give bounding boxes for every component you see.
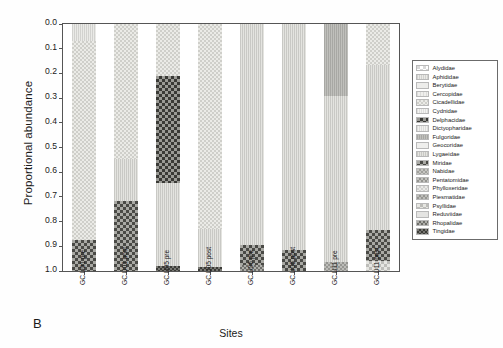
x-axis-label-gc-u05-post: GC U05 post xyxy=(205,247,212,285)
y-tick-mark xyxy=(59,246,63,247)
bar-gc-u11-pre[interactable] xyxy=(324,24,348,271)
legend-swatch-psyllidae xyxy=(416,203,429,209)
y-tick-mark xyxy=(59,221,63,222)
legend-item-cercopidae[interactable]: Cercopidae xyxy=(416,90,495,99)
x-axis-label-gc-u01-post: GC U01 post xyxy=(121,247,128,285)
y-tick-mark xyxy=(59,98,63,99)
legend-swatch-piesmatidae xyxy=(416,194,429,200)
bar-segment-lygaeidae[interactable] xyxy=(366,65,390,230)
legend-item-tingidae[interactable]: Tingidae xyxy=(416,227,495,236)
y-tick-label: 0.5 xyxy=(33,141,57,151)
y-tick-label: 0.1 xyxy=(33,42,57,52)
y-tick-label: 0.0 xyxy=(33,17,57,27)
legend-label: Pentatomidae xyxy=(433,176,469,185)
bar-segment-lygaeidae[interactable] xyxy=(282,24,306,250)
x-axis-title: Sites xyxy=(62,327,400,339)
legend-swatch-cydnidae xyxy=(416,108,429,114)
x-axis-label-gc-u05-pre: GC U05 pre xyxy=(163,250,170,285)
legend-swatch-reduviidae xyxy=(416,211,429,217)
legend-swatch-pentatomidae xyxy=(416,177,429,183)
y-tick-label: 0.8 xyxy=(33,215,57,225)
legend-swatch-geocoridae xyxy=(416,142,429,148)
bar-segment-fulgoridae[interactable] xyxy=(324,24,348,96)
legend-item-pentatomidae[interactable]: Pentatomidae xyxy=(416,176,495,185)
bar-gc-u01-pre[interactable] xyxy=(72,24,96,271)
legend-label: Tingidae xyxy=(433,227,455,236)
legend-label: Fulgoridae xyxy=(433,133,461,142)
legend-swatch-delphacidae xyxy=(416,117,429,123)
legend-label: Psyllidae xyxy=(433,202,457,211)
legend-label: Rhopalidae xyxy=(433,219,463,228)
legend-item-rhopalidae[interactable]: Rhopalidae xyxy=(416,219,495,228)
legend-label: Aphididae xyxy=(433,73,459,82)
legend-item-psyllidae[interactable]: Psyllidae xyxy=(416,202,495,211)
y-tick-mark xyxy=(59,271,63,272)
legend-item-lygaeidae[interactable]: Lygaeidae xyxy=(416,150,495,159)
legend-label: Piesmatidae xyxy=(433,193,465,202)
x-axis-label-gc-u11-pre: GC U11 pre xyxy=(331,250,338,285)
legend-item-cicadellidae[interactable]: Cicadellidae xyxy=(416,98,495,107)
legend-swatch-aphididae xyxy=(416,74,429,80)
legend-label: Geocoridae xyxy=(433,141,463,150)
legend-item-dictyopharidae[interactable]: Dictyopharidae xyxy=(416,124,495,133)
y-tick-label: 0.6 xyxy=(33,165,57,175)
legend-item-delphacidae[interactable]: Delphacidae xyxy=(416,116,495,125)
legend-item-miridae[interactable]: Miridae xyxy=(416,159,495,168)
legend-item-berytidae[interactable]: Berytidae xyxy=(416,81,495,90)
bar-segment-lygaeidae[interactable] xyxy=(240,24,264,245)
bar-segment-cicadellidae[interactable] xyxy=(72,41,96,240)
legend-item-cydnidae[interactable]: Cydnidae xyxy=(416,107,495,116)
legend-item-aphididae[interactable]: Aphididae xyxy=(416,73,495,82)
legend-label: Nabidae xyxy=(433,167,455,176)
legend-label: Lygaeidae xyxy=(433,150,460,159)
y-tick-mark xyxy=(59,122,63,123)
bar-segment-cicadellidae[interactable] xyxy=(366,24,390,65)
legend-swatch-berytidae xyxy=(416,82,429,88)
legend-swatch-tingidae xyxy=(416,228,429,234)
y-tick-mark xyxy=(59,73,63,74)
legend-item-nabidae[interactable]: Nabidae xyxy=(416,167,495,176)
y-tick-mark xyxy=(59,147,63,148)
bar-segment-lygaeidae[interactable] xyxy=(324,96,348,263)
legend-label: Dictyopharidae xyxy=(433,124,472,133)
plot-area: 0.00.10.20.30.40.50.60.70.80.91.0 xyxy=(62,23,400,272)
y-tick-label: 1.0 xyxy=(33,264,57,274)
legend-item-reduviidae[interactable]: Reduviidae xyxy=(416,210,495,219)
legend-swatch-miridae xyxy=(416,160,429,166)
y-tick-mark xyxy=(59,172,63,173)
panel-label: B xyxy=(33,316,42,331)
legend-swatch-nabidae xyxy=(416,168,429,174)
bar-segment-aphididae[interactable] xyxy=(72,24,96,41)
legend-swatch-fulgoridae xyxy=(416,134,429,140)
legend-item-fulgoridae[interactable]: Fulgoridae xyxy=(416,133,495,142)
legend-label: Miridae xyxy=(433,159,452,168)
bar-segment-cicadellidae[interactable] xyxy=(198,24,222,229)
bar-segment-cicadellidae[interactable] xyxy=(156,24,180,76)
bar-gc-u11-post[interactable] xyxy=(366,24,390,271)
legend-item-geocoridae[interactable]: Geocoridae xyxy=(416,141,495,150)
legend-item-phylloxeridae[interactable]: Phylloxeridae xyxy=(416,184,495,193)
bar-gc-u05-pre[interactable] xyxy=(156,24,180,271)
legend-label: Alydidae xyxy=(433,64,456,73)
bar-segment-cicadellidae[interactable] xyxy=(114,24,138,159)
legend-item-piesmatidae[interactable]: Piesmatidae xyxy=(416,193,495,202)
legend-swatch-dictyopharidae xyxy=(416,125,429,131)
y-tick-mark xyxy=(59,48,63,49)
bar-gc-u06-post[interactable] xyxy=(282,24,306,271)
figure-panel-b: Proportional abundance 0.00.10.20.30.40.… xyxy=(0,0,503,348)
bar-segment-lygaeidae[interactable] xyxy=(114,159,138,201)
x-axis-label-gc-u06-post: GC U06 post xyxy=(289,247,296,285)
bar-gc-u01-post[interactable] xyxy=(114,24,138,271)
legend-item-alydidae[interactable]: Alydidae xyxy=(416,64,495,73)
legend-label: Cercopidae xyxy=(433,90,463,99)
bar-gc-u06-pre[interactable] xyxy=(240,24,264,271)
legend-swatch-cicadellidae xyxy=(416,99,429,105)
y-tick-mark xyxy=(59,24,63,25)
legend-label: Cicadellidae xyxy=(433,98,465,107)
y-tick-label: 0.2 xyxy=(33,66,57,76)
bar-segment-delphacidae[interactable] xyxy=(156,76,180,183)
legend-swatch-alydidae xyxy=(416,65,429,71)
bar-gc-u05-post[interactable] xyxy=(198,24,222,271)
legend-swatch-rhopalidae xyxy=(416,220,429,226)
y-tick-label: 0.4 xyxy=(33,116,57,126)
